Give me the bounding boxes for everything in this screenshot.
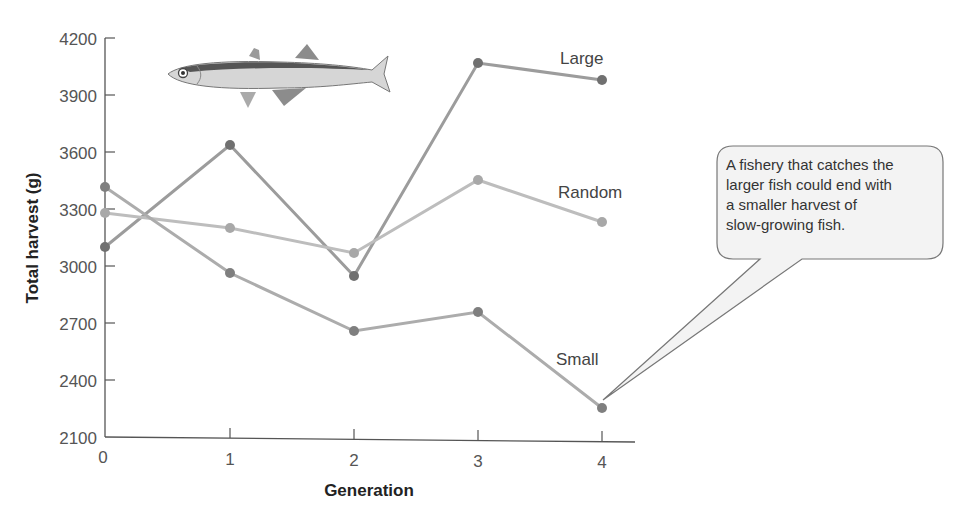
y-tick-label: 4200	[59, 30, 97, 49]
x-axis: 0 1 2 3 4 Generation	[98, 428, 635, 500]
series-label-small: Small	[556, 350, 599, 369]
callout-text-line: larger fish could end with	[726, 176, 892, 193]
callout-text-line: a smaller harvest of	[726, 196, 858, 213]
series-small: Small	[100, 182, 607, 413]
x-tick-label: 3	[473, 452, 482, 471]
callout-text-line: A fishery that catches the	[726, 156, 894, 173]
y-tick-label: 3600	[59, 144, 97, 163]
callout-text-line: slow-growing fish.	[726, 216, 845, 233]
y-axis-title: Total harvest (g)	[23, 173, 42, 304]
x-tick-label: 4	[597, 453, 606, 472]
callout-bubble: A fishery that catches the larger fish c…	[603, 146, 943, 400]
series-label-random: Random	[558, 183, 622, 202]
y-tick-label: 2100	[59, 429, 97, 448]
y-tick-label: 3300	[59, 201, 97, 220]
x-tick-label: 0	[98, 448, 107, 467]
fish-icon	[168, 44, 390, 108]
x-tick-label: 1	[225, 450, 234, 469]
y-tick-label: 3000	[59, 258, 97, 277]
x-tick-label: 2	[349, 451, 358, 470]
y-tick-label: 2400	[59, 372, 97, 391]
y-tick-label: 2700	[59, 315, 97, 334]
x-axis-title: Generation	[324, 481, 414, 500]
y-axis: 2100 2400 2700 3000 3300 3600 3900 4200 …	[23, 30, 115, 448]
series-label-large: Large	[560, 49, 603, 68]
line-chart: 2100 2400 2700 3000 3300 3600 3900 4200 …	[0, 0, 963, 515]
y-tick-label: 3900	[59, 87, 97, 106]
